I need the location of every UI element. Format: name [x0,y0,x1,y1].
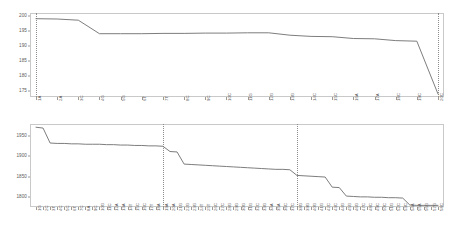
top-chart-y-tick-mark [28,16,31,17]
top-chart-line [36,19,438,94]
bottom-chart-y-tick-mark [28,136,31,137]
bottom-chart-series-layer [0,116,462,232]
top-chart-y-tick-mark [28,76,31,77]
top-chart-y-tick-mark [28,31,31,32]
figure-root: 175180185190195200 1A2A3C4G5G6T7T8C9C10C… [0,0,462,232]
bottom-chart-y-tick-mark [28,196,31,197]
top-chart-y-tick-mark [28,91,31,92]
bottom-chart-y-tick-mark [28,156,31,157]
top-chart-series-layer [0,0,462,116]
bottom-chart-line [36,127,438,205]
bottom-chart-y-tick-mark [28,176,31,177]
top-chart-y-tick-mark [28,46,31,47]
bottom-chart-panel: 1800185019001950 1G2C3T4C5C6T7C8A9C10G11… [0,116,462,232]
top-chart-panel: 175180185190195200 1A2A3C4G5G6T7T8C9C10C… [0,0,462,116]
top-chart-y-tick-mark [28,61,31,62]
